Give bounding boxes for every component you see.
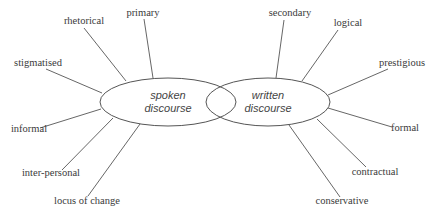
spoke-secondary bbox=[276, 20, 284, 78]
spoke-conservative bbox=[289, 125, 340, 197]
spoke-contractual bbox=[317, 119, 366, 167]
label-inter-personal: inter-personal bbox=[22, 167, 80, 178]
spoke-rhetorical bbox=[84, 28, 126, 81]
label-stigmatised: stigmatised bbox=[14, 57, 63, 68]
spoke-formal bbox=[328, 108, 392, 127]
label-primary: primary bbox=[126, 7, 160, 18]
label-formal: formal bbox=[391, 122, 419, 133]
spoke-stigmatised bbox=[46, 69, 102, 93]
spoke-prestigious bbox=[328, 69, 388, 95]
spoke-logical bbox=[302, 30, 338, 81]
spoken-discourse-label-line2: discourse bbox=[144, 102, 191, 114]
label-informal: informal bbox=[11, 123, 47, 134]
spoke-primary bbox=[144, 19, 153, 78]
written-discourse-label-line2: discourse bbox=[244, 102, 291, 114]
discourse-diagram: spoken discourse written discourse rheto… bbox=[0, 0, 431, 217]
label-contractual: contractual bbox=[352, 166, 399, 177]
spoke-informal bbox=[40, 109, 101, 128]
label-locus-of-change: locus of change bbox=[54, 195, 120, 206]
label-conservative: conservative bbox=[315, 195, 368, 206]
label-secondary: secondary bbox=[269, 7, 312, 18]
spoken-discourse-label-line1: spoken bbox=[150, 89, 185, 101]
label-rhetorical: rhetorical bbox=[64, 15, 104, 26]
spoke-inter-personal bbox=[62, 118, 113, 170]
spoke-locus-of-change bbox=[88, 124, 140, 196]
label-prestigious: prestigious bbox=[379, 57, 425, 68]
label-logical: logical bbox=[334, 17, 363, 28]
written-discourse-label-line1: written bbox=[252, 89, 284, 101]
